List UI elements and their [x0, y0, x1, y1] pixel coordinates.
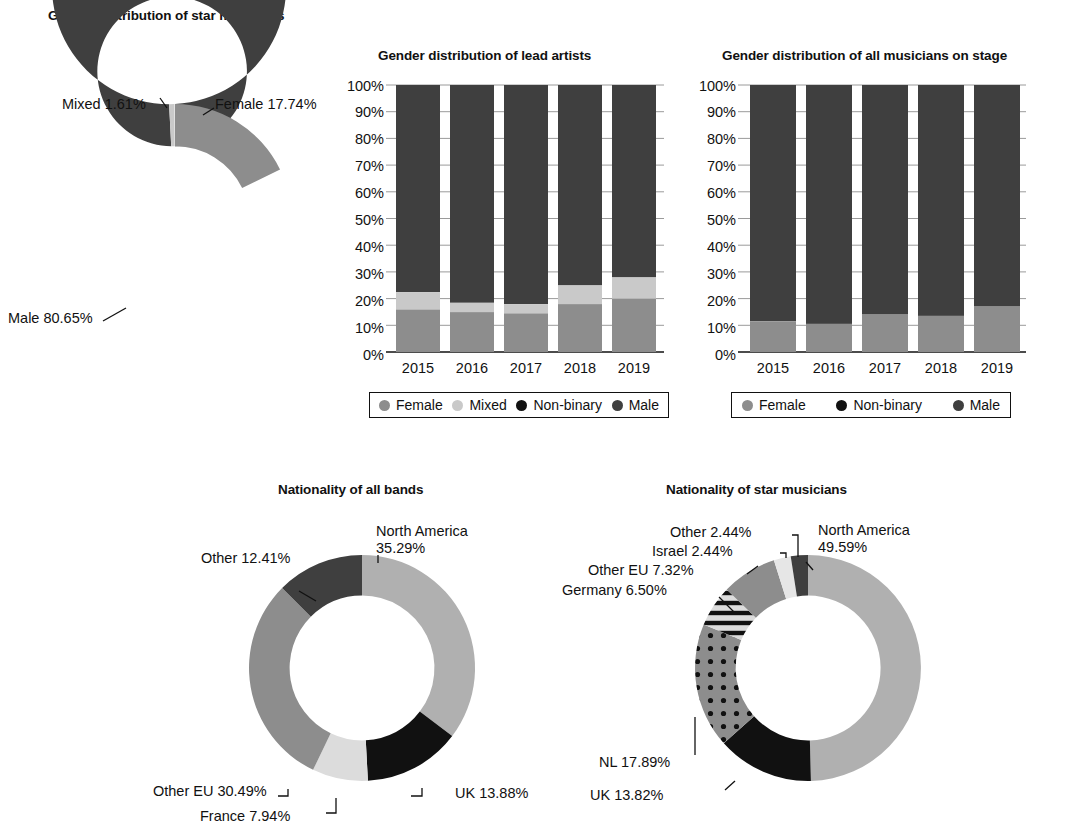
y-tick-40: 40%	[682, 239, 736, 255]
y-tick-20: 20%	[330, 293, 384, 309]
y-tick-100: 100%	[330, 78, 384, 94]
donut-slice-other-eu	[249, 588, 331, 770]
y-tick-0: 0%	[330, 347, 384, 363]
label-nl: NL 17.89%	[599, 754, 670, 771]
bar-segment-mixed	[450, 303, 494, 312]
legend-swatch-non-binary	[516, 400, 527, 411]
y-tick-70: 70%	[682, 158, 736, 174]
legend-swatch-male	[612, 400, 623, 411]
leader-line-other	[792, 535, 798, 557]
leader-line-israel	[780, 553, 786, 558]
bar-segment-mixed	[612, 277, 656, 298]
bar-segment-male	[558, 85, 602, 285]
y-tick-60: 60%	[330, 185, 384, 201]
chart-gender-lead-artists: Gender distribution of lead artists 100%…	[330, 40, 670, 430]
legend-swatch-mixed	[452, 400, 463, 411]
label-north-america: North America 35.29%	[376, 523, 468, 557]
bar-group-2015	[750, 85, 796, 352]
label-north-america-value: 35.29%	[376, 540, 425, 556]
chart-nationality-all-bands: Nationality of all bands North America 3…	[190, 470, 610, 835]
label-germany: Germany 6.50%	[562, 582, 667, 599]
legend-item-non-binary[interactable]: Non-binary	[516, 397, 601, 413]
bar-segment-female	[396, 310, 440, 353]
chart-nationality-star-musicians: Nationality of star musicians	[600, 470, 1040, 835]
bar-segment-male	[974, 85, 1020, 307]
legend-label: Male	[970, 397, 1000, 413]
x-tick-2015: 2015	[750, 360, 796, 376]
legend-item-mixed[interactable]: Mixed	[452, 397, 506, 413]
label-north-america: North America 49.59%	[818, 522, 910, 556]
bar-segment-male	[806, 85, 852, 324]
label-uk: UK 13.82%	[590, 787, 663, 804]
legend-label: Mixed	[469, 397, 506, 413]
legend-label: Non-binary	[853, 397, 921, 413]
y-tick-40: 40%	[330, 239, 384, 255]
chart-title: Gender distribution of lead artists	[378, 48, 591, 63]
label-north-america-value: 49.59%	[818, 539, 867, 555]
bar-segment-female	[974, 307, 1020, 352]
y-tick-30: 30%	[330, 266, 384, 282]
bar-segment-female	[612, 299, 656, 352]
label-female: Female 17.74%	[215, 96, 317, 113]
y-tick-10: 10%	[330, 320, 384, 336]
label-other: Other 12.41%	[201, 550, 290, 567]
bar-segment-male	[750, 85, 796, 321]
leader-line-male	[103, 308, 126, 321]
x-tick-2018: 2018	[558, 360, 602, 376]
label-male: Male 80.65%	[8, 310, 93, 327]
chart-title: Gender distribution of all musicians on …	[722, 48, 1007, 63]
x-tick-2016: 2016	[450, 360, 494, 376]
bar-segment-female	[918, 316, 964, 352]
bar-segment-male	[862, 85, 908, 315]
legend-label: Female	[759, 397, 806, 413]
y-tick-50: 50%	[330, 212, 384, 228]
bar-group-2018	[918, 85, 964, 352]
label-other: Other 2.44%	[670, 524, 751, 541]
legend-item-female[interactable]: Female	[742, 397, 806, 413]
label-uk: UK 13.88%	[455, 785, 528, 802]
bar-segment-mixed	[504, 304, 548, 313]
label-other-eu: Other EU 30.49%	[153, 783, 267, 800]
legend-label: Male	[629, 397, 659, 413]
x-tick-2019: 2019	[974, 360, 1020, 376]
bar-group-2019	[974, 85, 1020, 352]
legend: Female Non-binary Male	[731, 392, 1011, 418]
bar-segment-female	[806, 324, 852, 352]
bar-segment-male	[504, 85, 548, 304]
label-france: France 7.94%	[200, 808, 290, 825]
legend-item-non-binary[interactable]: Non-binary	[836, 397, 921, 413]
label-north-america-name: North America	[818, 522, 910, 538]
bar-segment-male	[612, 85, 656, 277]
leader-line-uk	[725, 781, 735, 790]
chart-gender-all-musicians: Gender distribution of all musicians on …	[682, 40, 1022, 430]
label-north-america-name: North America	[376, 523, 468, 539]
bar-segment-female	[558, 304, 602, 352]
legend-swatch-male	[953, 400, 964, 411]
y-tick-80: 80%	[682, 131, 736, 147]
label-mixed: Mixed 1.61%	[62, 96, 146, 113]
bar-group-2017	[504, 85, 548, 352]
bar-segment-female	[862, 315, 908, 352]
legend-item-male[interactable]: Male	[953, 397, 1000, 413]
leader-line-france	[326, 798, 336, 813]
label-israel: Israel 2.44%	[652, 543, 733, 560]
legend-label: Female	[396, 397, 443, 413]
bar-segment-female	[450, 312, 494, 352]
chart-title: Nationality of star musicians	[666, 482, 847, 497]
bar-segment-mixed	[396, 292, 440, 309]
y-tick-80: 80%	[330, 131, 384, 147]
legend: Female Mixed Non-binary Male	[369, 392, 669, 418]
bar-segment-female	[504, 313, 548, 352]
bar-group-2016	[450, 85, 494, 352]
bar-group-2018	[558, 85, 602, 352]
donut-slice-north-america	[808, 555, 921, 781]
bar-segment-female	[750, 321, 796, 352]
y-tick-50: 50%	[682, 212, 736, 228]
x-tick-2016: 2016	[806, 360, 852, 376]
donut-slice-north-america	[362, 555, 475, 736]
label-other-eu: Other EU 7.32%	[588, 562, 694, 579]
x-tick-2019: 2019	[612, 360, 656, 376]
legend-item-female[interactable]: Female	[379, 397, 443, 413]
legend-item-male[interactable]: Male	[612, 397, 659, 413]
bar-group-2019	[612, 85, 656, 352]
